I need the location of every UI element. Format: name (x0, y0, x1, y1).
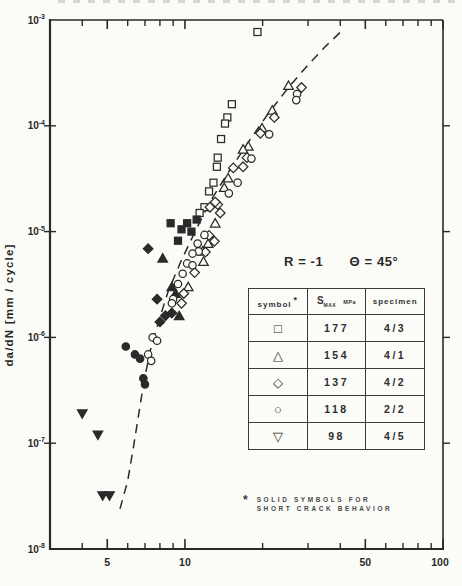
data-point-marker (214, 154, 221, 161)
data-point-marker (265, 131, 272, 138)
data-point-marker (223, 174, 233, 182)
series-smax-137-long-crack (177, 83, 307, 308)
x-tick-label: 5 (104, 556, 110, 568)
data-point-marker (293, 96, 300, 103)
test-conditions-annotation: R = -1 Θ = 45° (284, 254, 454, 269)
y-tick-label: 10-6 (28, 330, 45, 343)
legend-specimen-value: 2/2 (366, 396, 425, 423)
stress-ratio-label: R = -1 (284, 254, 323, 269)
legend-table: symbol* SMAXMPa specimen □1774/3△1544/1◇… (248, 288, 425, 450)
data-point-marker (143, 244, 153, 254)
data-point-marker (199, 257, 209, 265)
series-smax-177-long-crack (196, 29, 261, 217)
data-point-marker (210, 219, 220, 227)
data-point-marker (210, 179, 217, 186)
data-point-marker (177, 299, 187, 309)
data-point-marker (196, 209, 203, 216)
legend-header-smax: SMAXMPa (307, 289, 366, 315)
data-point-marker (189, 262, 196, 269)
data-point-marker (93, 431, 103, 439)
y-tick-label: 10-3 (28, 13, 45, 26)
data-point-marker (184, 220, 191, 227)
data-point-marker (284, 81, 294, 89)
data-point-marker (254, 29, 261, 36)
theta-angle-label: Θ = 45° (350, 254, 399, 269)
data-point-marker (248, 155, 255, 162)
data-point-marker (158, 254, 168, 262)
legend-row-smax-137: ◇1374/2 (249, 369, 425, 396)
data-point-marker (122, 343, 129, 350)
circle-symbol-icon: ○ (249, 396, 308, 423)
legend-smax-value: 154 (307, 342, 366, 369)
data-point-marker (229, 163, 239, 173)
legend-table-body: □1774/3△1544/1◇1374/2○1182/2▽984/5 (249, 315, 425, 450)
data-point-marker (225, 190, 232, 197)
data-point-marker (147, 357, 154, 364)
data-point-marker (188, 228, 195, 235)
diamond-symbol-icon: ◇ (249, 369, 308, 396)
data-point-marker (175, 237, 182, 244)
y-axis-title: da/dN [mm / cycle] (3, 243, 15, 366)
series-smax-177-short-crack (167, 216, 200, 244)
legend-row-smax-154: △1544/1 (249, 342, 425, 369)
series-smax-118-short-crack (122, 343, 149, 388)
legend-row-smax-177: □1774/3 (249, 315, 425, 342)
footnote-line-1: SOLID SYMBOLS FOR (257, 496, 371, 503)
data-point-marker (152, 294, 162, 304)
y-axis-ticks: 10-310-410-510-610-710-8 (28, 13, 450, 555)
data-point-marker (228, 101, 235, 108)
data-point-marker (215, 208, 225, 218)
legend-specimen-value: 4/5 (366, 423, 425, 450)
data-point-marker (218, 136, 225, 143)
data-point-marker (206, 188, 213, 195)
legend-smax-value: 98 (307, 423, 366, 450)
solid-symbols-footnote: * SOLID SYMBOLS FOR SHORT CRACK BEHAVIOR (243, 495, 392, 513)
scanned-figure-page: 5105010010-310-410-510-610-710-8da/dN [m… (0, 0, 462, 586)
data-point-marker (174, 280, 181, 287)
legend-smax-value: 177 (307, 315, 366, 342)
legend-specimen-value: 4/1 (366, 342, 425, 369)
data-point-marker (168, 300, 175, 307)
y-tick-label: 10-8 (28, 542, 45, 555)
legend-table-header: symbol* SMAXMPa specimen (249, 289, 425, 315)
data-point-marker (167, 220, 174, 227)
y-tick-label: 10-5 (28, 225, 45, 238)
legend-row-smax-118: ○1182/2 (249, 396, 425, 423)
legend-header-symbol: symbol* (249, 289, 308, 315)
legend-row-smax-98: ▽984/5 (249, 423, 425, 450)
data-point-marker (213, 163, 220, 170)
data-point-marker (136, 355, 143, 362)
footnote-text: SOLID SYMBOLS FOR SHORT CRACK BEHAVIOR (257, 495, 393, 513)
data-point-marker (238, 162, 248, 172)
y-tick-label: 10-7 (28, 436, 45, 449)
plot-frame (49, 19, 444, 550)
data-point-marker (234, 179, 241, 186)
y-tick-label: 10-4 (28, 119, 45, 132)
x-tick-label: 10 (179, 556, 191, 568)
asterisk-icon: * (294, 295, 299, 305)
asterisk-icon: * (243, 495, 248, 505)
data-point-marker (193, 216, 200, 223)
footnote-line-2: SHORT CRACK BEHAVIOR (257, 505, 393, 512)
legend-header-specimen: specimen (366, 289, 425, 315)
data-point-marker (201, 231, 208, 238)
x-tick-label: 50 (359, 556, 371, 568)
inv-triangle-symbol-icon: ▽ (249, 423, 308, 450)
data-point-marker (179, 270, 186, 277)
square-symbol-icon: □ (249, 315, 308, 342)
data-point-marker (189, 250, 196, 257)
x-tick-label: 100 (431, 556, 449, 568)
triangle-symbol-icon: △ (249, 342, 308, 369)
data-point-marker (153, 337, 160, 344)
legend-specimen-value: 4/3 (366, 315, 425, 342)
data-point-marker (141, 381, 148, 388)
legend-smax-value: 118 (307, 396, 366, 423)
data-point-marker (77, 410, 87, 418)
data-point-marker (105, 492, 115, 500)
data-point-marker (194, 240, 201, 247)
data-point-marker (222, 120, 229, 127)
data-point-marker (267, 106, 277, 114)
legend-smax-value: 137 (307, 369, 366, 396)
series-smax-98-short-crack (77, 410, 114, 500)
legend-specimen-value: 4/2 (366, 369, 425, 396)
